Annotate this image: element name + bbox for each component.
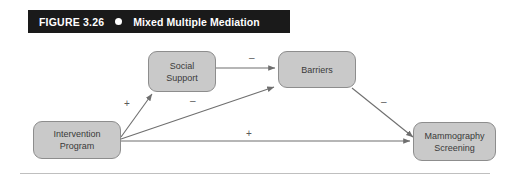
node-mammography-screening: Mammography Screening (413, 122, 496, 161)
path-sign-barriers-to-mammography: – (381, 97, 387, 107)
figure-container: FIGURE 3.26 Mixed Multiple Mediation In (0, 0, 506, 183)
node-social-support: Social Support (148, 51, 216, 92)
bottom-divider (20, 173, 490, 174)
node-intervention-program: Intervention Program (33, 121, 121, 159)
path-sign-social-to-barriers: – (249, 53, 255, 63)
node-label: Mammography Screening (424, 130, 484, 154)
path-sign-intervention-to-mammography: + (246, 129, 252, 139)
path-sign-intervention-to-barriers: – (190, 96, 196, 106)
node-barriers: Barriers (278, 51, 356, 88)
node-label: Barriers (301, 64, 333, 76)
node-label: Social Support (166, 60, 198, 84)
node-label: Intervention Program (53, 128, 100, 152)
path-sign-intervention-to-social: + (124, 99, 130, 109)
